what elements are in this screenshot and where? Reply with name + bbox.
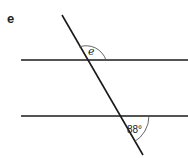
angle-88-label: 88° — [127, 124, 142, 135]
parallel-lines-diagram: e 88° — [0, 0, 188, 158]
angle-e-label: e — [88, 45, 95, 58]
